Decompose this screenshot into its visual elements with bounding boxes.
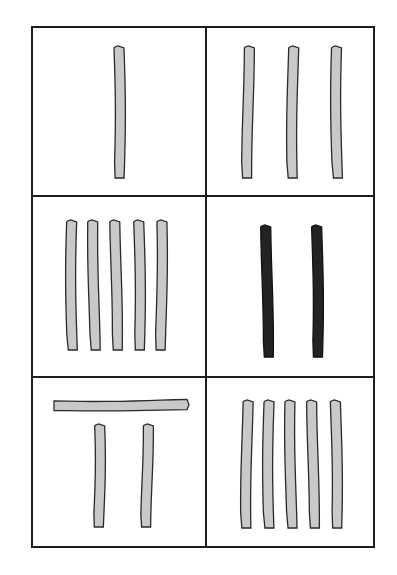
vertical-stick (312, 225, 324, 357)
horizontal-stick (54, 399, 189, 411)
vertical-stick (307, 400, 320, 528)
vertical-stick (287, 46, 299, 178)
panel-6 (241, 400, 343, 528)
vertical-stick (156, 220, 168, 350)
panel-5 (54, 399, 189, 527)
vertical-stick (285, 400, 297, 528)
vertical-stick (66, 220, 78, 350)
vertical-stick (242, 46, 255, 178)
vertical-stick (263, 400, 274, 528)
vertical-stick (241, 400, 253, 528)
vertical-stick (114, 46, 125, 178)
vertical-stick (134, 220, 146, 350)
vertical-stick (261, 225, 274, 357)
stick-grid-diagram (0, 0, 397, 575)
vertical-stick (94, 424, 106, 527)
panel-2 (242, 46, 343, 178)
panels (54, 46, 342, 528)
vertical-stick (88, 220, 101, 350)
panel-3 (66, 220, 168, 350)
vertical-stick (110, 220, 123, 350)
panel-1 (114, 46, 125, 178)
vertical-stick (330, 400, 342, 528)
vertical-stick (331, 46, 343, 178)
vertical-stick (141, 424, 154, 527)
panel-4 (261, 225, 324, 357)
